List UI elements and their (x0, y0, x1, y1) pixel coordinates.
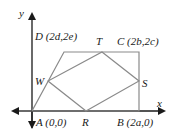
y-axis-label: y (18, 7, 24, 19)
point-w-label: W (35, 75, 45, 87)
point-t-label: T (96, 35, 103, 47)
x-axis-label: x (156, 97, 162, 109)
point-s-label: S (142, 77, 148, 89)
point-c-label: C (2b,2c) (117, 35, 159, 48)
quadrilateral-rstw (48, 52, 139, 111)
point-d-label: D (2d,2e) (34, 30, 77, 43)
point-r-label: R (81, 116, 89, 128)
coordinate-diagram: y x D (2d,2e) T C (2b,2c) W S A (0,0) R … (0, 0, 178, 137)
point-a-label: A (0,0) (35, 116, 67, 129)
point-b-label: B (2a,0) (117, 116, 153, 129)
